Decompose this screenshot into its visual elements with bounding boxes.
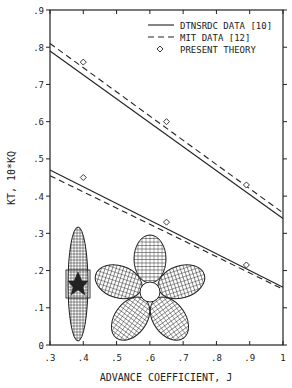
propeller-illustrations: [66, 227, 210, 349]
propeller-hub: [140, 282, 160, 302]
propeller-side-view: [66, 227, 90, 341]
x-tick-label: .6: [144, 353, 155, 363]
data-series: [50, 44, 283, 290]
propeller-blade: [90, 258, 148, 306]
chart-container: .3.4.5.6.7.8.91 0.1.2.3.4.5.6.7.8.9 DTNS…: [0, 0, 292, 388]
x-axis-label: ADVANCE COEFFICIENT, J: [100, 372, 232, 383]
x-tick-label: .3: [45, 353, 56, 363]
propeller-blade: [152, 258, 210, 306]
y-tick-label: 0: [39, 341, 44, 351]
x-tick-label: .4: [78, 353, 89, 363]
y-tick-label: .7: [33, 80, 44, 90]
legend-label: PRESENT THEORY: [180, 45, 256, 55]
legend-label: MIT DATA [12]: [180, 33, 250, 43]
x-tick-label: 1: [280, 353, 285, 363]
y-tick-label: .2: [33, 266, 44, 276]
y-tick-label: .9: [33, 6, 44, 16]
legend-diamond-icon: [157, 46, 163, 52]
x-tick-label: .5: [111, 353, 122, 363]
kt-kq-chart: .3.4.5.6.7.8.91 0.1.2.3.4.5.6.7.8.9 DTNS…: [0, 0, 292, 388]
x-tick-label: .7: [178, 353, 189, 363]
legend-label: DTNSRDC DATA [10]: [180, 21, 272, 31]
x-tick-label: .9: [244, 353, 255, 363]
y-tick-label: .6: [33, 117, 44, 127]
dtnsrdc-data-line: [50, 51, 283, 219]
y-axis-label: KT, 10*KQ: [6, 151, 17, 205]
y-tick-label: .4: [33, 192, 44, 202]
y-tick-label: .8: [33, 43, 44, 53]
theory-point-diamond: [164, 119, 170, 125]
propeller-front-view: [90, 234, 211, 349]
x-tick-label: .8: [211, 353, 222, 363]
theory-point-diamond: [80, 59, 86, 65]
theory-point-diamond: [243, 182, 249, 188]
theory-point-diamond: [164, 219, 170, 225]
y-tick-label: .1: [33, 303, 44, 313]
theory-point-diamond: [243, 262, 249, 268]
y-tick-label: .5: [33, 154, 44, 164]
legend: DTNSRDC DATA [10]MIT DATA [12]PRESENT TH…: [148, 21, 272, 55]
y-tick-label: .3: [33, 229, 44, 239]
theory-point-diamond: [80, 175, 86, 181]
